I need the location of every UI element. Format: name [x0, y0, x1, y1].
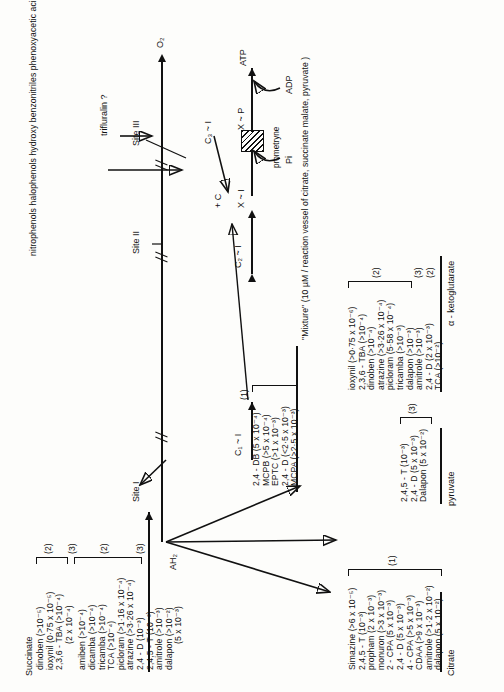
list-item: TCA (>10⁻²) — [434, 299, 444, 390]
pyruvate-ref-1: (3) — [408, 403, 418, 414]
mixture-note-line: malate, pyruvate ) — [300, 57, 310, 128]
mixture-note: "Mixture" (10 µM / reaction vessel of ci… — [300, 57, 311, 340]
list-item: MCPA (>2·5 x 10⁻³) — [290, 406, 300, 486]
label-citrate: Citrate — [446, 649, 456, 676]
site1-brace — [252, 385, 298, 392]
citrate-inhibitor-list: Simazine (>6 x 10⁻⁵) 2,4,5 - T (10⁻³) pr… — [348, 585, 444, 670]
mixture-note-line: "Mixture" — [300, 305, 310, 340]
mixture-note-line: (10 µM / reaction vessel — [300, 209, 310, 303]
list-item: nitrophenols — [28, 208, 38, 256]
list-item: halophenols — [28, 158, 38, 205]
citrate-brace — [348, 569, 442, 576]
pyruvate-brace — [400, 417, 432, 424]
akg-inhibitor-list: ioxynil (>0·75 x 10⁻⁶) 2,3,6 - TBA (>10⁻… — [348, 299, 444, 390]
pyruvate-feeder-line — [440, 428, 442, 504]
succinate-ref-4: (3) — [136, 543, 146, 554]
succinate-arrowhead — [145, 512, 153, 520]
succinate-inhibitor-list: dinoben (>10⁻⁵) ioxynil (0·75 x 10⁻⁵) 2,… — [36, 578, 184, 670]
metabolic-pathway-figure: O₂ AH₂ Site I Site II Site III C₁ ~ I C₂… — [0, 0, 504, 692]
succinate-ref-1: (2) — [44, 543, 54, 554]
label-succinate: Succinate — [24, 636, 34, 676]
list-item: (2 x 10⁻⁴) — [65, 578, 75, 670]
succinate-brace-1 — [36, 557, 68, 564]
succinate-ref-2: (3) — [68, 543, 78, 554]
list-item: phenoxyacetic acids — [28, 0, 38, 70]
akg-ref-1: (2) — [372, 267, 382, 278]
site1-ref-1: (1) — [240, 389, 250, 400]
akg-ref-2: (3) — [414, 267, 424, 278]
mixture-note-line: of citrate, succinate — [300, 130, 310, 206]
site1-inhibitor-list: 2,4 - DB (5 x 10⁻⁴) MCPB (>5 x 10⁻⁴) EPT… — [252, 406, 300, 486]
akg-brace-1 — [348, 281, 412, 288]
citrate-ref-1: (1) — [388, 555, 398, 566]
akg-ref-3: (2) — [426, 267, 436, 278]
uncoupler-list: nitrophenols halophenols hydroxy benzoni… — [28, 0, 39, 256]
list-item: hydroxy benzonitriles — [28, 73, 38, 156]
list-item: (5 x 10⁻³) — [174, 578, 184, 670]
label-alpha-ketoglutarate: α - ketoglutarate — [446, 261, 456, 326]
succinate-brace-2 — [74, 557, 142, 564]
label-pyruvate: pyruvate — [446, 471, 456, 506]
pyruvate-inhibitor-list: 2,4,5 - T (10⁻³) 2,4 - D (5 x 10⁻³) Dala… — [400, 429, 429, 502]
list-item: Dalapon (5 x 10⁻²) — [419, 429, 429, 502]
succinate-ref-3: (2) — [100, 543, 110, 554]
list-item: dalapon (5 x 10⁻²) — [434, 585, 444, 670]
